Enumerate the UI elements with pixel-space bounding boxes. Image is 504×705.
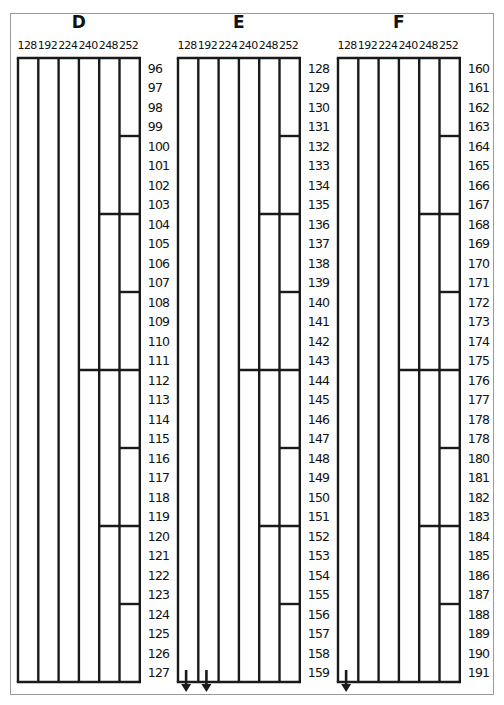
row-label: 178 [468, 431, 490, 446]
row-label: 178 [468, 412, 490, 427]
row-label: 100 [148, 139, 170, 154]
row-label: 123 [148, 587, 169, 602]
row-label: 117 [148, 470, 169, 485]
row-label: 106 [148, 256, 170, 271]
mask-header-128: 128 [178, 39, 198, 52]
row-label: 170 [468, 256, 490, 271]
row-label: 122 [148, 568, 169, 583]
row-label: 174 [468, 334, 490, 349]
row-label: 108 [148, 295, 170, 310]
row-label: 159 [308, 665, 330, 680]
row-label: 109 [148, 314, 170, 329]
row-label: 171 [468, 275, 489, 290]
row-label: 169 [468, 236, 490, 251]
mask-header-248: 248 [99, 39, 119, 52]
row-label: 119 [148, 509, 170, 524]
row-label: 189 [468, 626, 490, 641]
row-label: 131 [308, 119, 329, 134]
panel-title: E [233, 12, 245, 32]
mask-header-240: 240 [398, 39, 418, 52]
row-label: 177 [468, 392, 489, 407]
row-label: 134 [308, 178, 330, 193]
mask-header-224: 224 [58, 39, 78, 52]
row-label: 163 [468, 119, 489, 134]
mask-header-192: 192 [38, 39, 57, 52]
mask-header-224: 224 [378, 39, 398, 52]
row-label: 187 [468, 587, 489, 602]
row-label: 101 [148, 158, 169, 173]
row-label: 133 [308, 158, 329, 173]
row-label: 158 [308, 646, 330, 661]
row-label: 156 [308, 607, 330, 622]
row-label: 166 [468, 178, 490, 193]
row-label: 164 [468, 139, 490, 154]
subnet-grid-diagram: D128192224240248252969798991001011021031… [0, 0, 504, 705]
row-label: 111 [148, 353, 169, 368]
mask-header-192: 192 [358, 39, 377, 52]
row-label: 151 [308, 509, 329, 524]
panel-title: F [393, 12, 405, 32]
row-label: 183 [468, 509, 489, 524]
row-label: 148 [308, 451, 330, 466]
row-label: 185 [468, 548, 489, 563]
panel-d: D128192224240248252969798991001011021031… [17, 12, 170, 682]
row-label: 98 [148, 100, 163, 115]
mask-header-128: 128 [18, 39, 38, 52]
row-label: 141 [308, 314, 329, 329]
row-label: 154 [308, 568, 330, 583]
row-label: 114 [148, 412, 170, 427]
row-label: 155 [308, 587, 329, 602]
row-label: 160 [468, 61, 490, 76]
row-label: 180 [468, 451, 490, 466]
row-label: 152 [308, 529, 329, 544]
row-label: 146 [308, 412, 330, 427]
row-label: 188 [468, 607, 490, 622]
row-label: 161 [468, 80, 489, 95]
row-label: 186 [468, 568, 490, 583]
mask-header-240: 240 [238, 39, 258, 52]
row-label: 176 [468, 373, 490, 388]
row-label: 136 [308, 217, 330, 232]
row-label: 128 [308, 61, 330, 76]
row-label: 182 [468, 490, 489, 505]
mask-header-224: 224 [218, 39, 238, 52]
row-label: 113 [148, 392, 169, 407]
row-label: 120 [148, 529, 170, 544]
panel-f: F128192224240248252160161162163164165166… [337, 12, 490, 692]
row-label: 107 [148, 275, 169, 290]
row-label: 190 [468, 646, 490, 661]
row-label: 139 [308, 275, 330, 290]
mask-header-240: 240 [78, 39, 98, 52]
mask-header-192: 192 [198, 39, 217, 52]
panel-e: E128192224240248252128129130131132133134… [177, 12, 330, 692]
row-label: 105 [148, 236, 169, 251]
row-label: 138 [308, 256, 330, 271]
mask-header-252: 252 [279, 39, 298, 52]
row-label: 145 [308, 392, 329, 407]
row-label: 149 [308, 470, 330, 485]
row-label: 144 [308, 373, 330, 388]
row-label: 162 [468, 100, 489, 115]
row-label: 115 [148, 431, 169, 446]
row-label: 157 [308, 626, 329, 641]
mask-header-252: 252 [119, 39, 138, 52]
row-label: 125 [148, 626, 169, 641]
row-label: 165 [468, 158, 489, 173]
row-label: 143 [308, 353, 329, 368]
mask-header-128: 128 [338, 39, 358, 52]
row-label: 121 [148, 548, 169, 563]
row-label: 127 [148, 665, 169, 680]
row-label: 181 [468, 470, 489, 485]
row-label: 150 [308, 490, 330, 505]
row-label: 137 [308, 236, 329, 251]
row-label: 142 [308, 334, 329, 349]
row-label: 173 [468, 314, 489, 329]
row-label: 104 [148, 217, 170, 232]
row-label: 97 [148, 80, 162, 95]
row-label: 129 [308, 80, 330, 95]
mask-header-248: 248 [259, 39, 279, 52]
row-label: 135 [308, 197, 329, 212]
panel-title: D [72, 12, 86, 32]
mask-header-248: 248 [419, 39, 439, 52]
row-label: 103 [148, 197, 169, 212]
